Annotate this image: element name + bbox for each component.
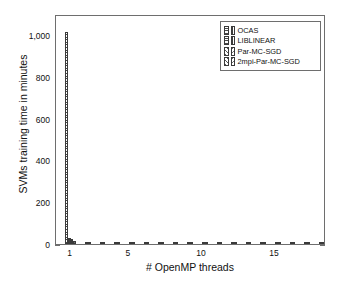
chart-figure: SVMs training time in minutes 0200400600… [0, 0, 343, 287]
legend-label-par-mc-sgd: Par-MC-SGD [238, 47, 282, 56]
bar [249, 242, 252, 244]
bar [190, 242, 193, 244]
legend-item-liblinear: LIBLINEAR [224, 36, 316, 46]
bar [322, 242, 325, 244]
bar [146, 242, 149, 244]
y-axis-tick-label: 800 [0, 73, 50, 83]
legend-swatch-icon-2mpi-par-mc-sgd [224, 57, 229, 66]
legend-label-2mpi-par-mc-sgd: 2mpi-Par-MC-SGD [238, 57, 300, 66]
bar [278, 242, 281, 244]
y-axis-tick-mark-right [320, 245, 325, 246]
bar [219, 242, 222, 244]
y-axis-tick-label: 600 [0, 115, 50, 125]
bar [117, 242, 120, 244]
chart-legend: OCAS LIBLINEAR Par-MC-SGD 2mpi-Par-MC-SG… [220, 21, 321, 71]
x-axis-tick-label: 1 [67, 248, 72, 258]
bar [176, 242, 179, 244]
y-axis-tick-label: 400 [0, 156, 50, 166]
bar [132, 242, 135, 244]
legend-label-liblinear: LIBLINEAR [238, 36, 276, 45]
y-axis-tick-label: 200 [0, 198, 50, 208]
legend-item-ocas: OCAS [224, 25, 316, 35]
y-axis-tick-label: 0 [0, 240, 50, 250]
bar [161, 242, 164, 244]
bar [65, 32, 68, 244]
x-axis-tick-label: 15 [269, 248, 278, 258]
legend-item-par-mc-sgd: Par-MC-SGD [224, 46, 316, 56]
bar [205, 242, 208, 244]
x-axis-tick-label: 5 [126, 248, 131, 258]
legend-swatch-icon-liblinear-b [231, 36, 235, 45]
legend-item-2mpi-par-mc-sgd: 2mpi-Par-MC-SGD [224, 57, 316, 67]
bar [292, 242, 295, 244]
legend-swatch-icon-2mpi-par-mc-sgd-b [231, 57, 235, 66]
legend-swatch-icon-ocas-b [231, 26, 235, 35]
y-axis-tick-label: 1,000 [0, 31, 50, 41]
x-axis-title: # OpenMP threads [55, 261, 325, 273]
bar [263, 242, 266, 244]
legend-swatch-icon-liblinear [224, 36, 229, 45]
legend-swatch-icon-par-mc-sgd-b [231, 47, 235, 56]
legend-swatch-icon-ocas [224, 26, 229, 35]
legend-label-ocas: OCAS [238, 26, 259, 35]
y-axis-tick-mark [55, 245, 60, 246]
x-axis-tick-label: 10 [196, 248, 205, 258]
bar [234, 242, 237, 244]
bar [103, 242, 106, 244]
legend-swatch-icon-par-mc-sgd [224, 47, 229, 56]
bar [88, 242, 91, 244]
bar [307, 242, 310, 244]
bar [73, 241, 76, 244]
